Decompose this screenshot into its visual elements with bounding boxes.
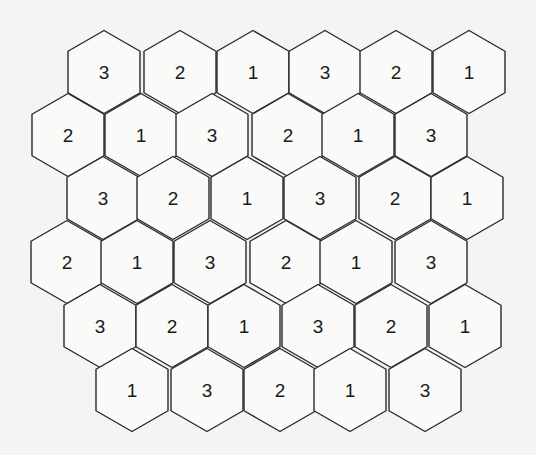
hex-cell-label: 3 bbox=[205, 252, 216, 273]
hex-cell-label: 2 bbox=[63, 125, 74, 146]
hex-cell-label: 1 bbox=[248, 62, 259, 83]
hex-cell-label: 3 bbox=[202, 380, 213, 401]
hex-cell-label: 1 bbox=[345, 380, 356, 401]
hex-cell-label: 2 bbox=[281, 252, 292, 273]
hex-cell-label: 3 bbox=[98, 188, 109, 209]
hex-cell-label: 2 bbox=[167, 316, 178, 337]
hex-cell-label: 3 bbox=[426, 125, 437, 146]
hex-cell-label: 1 bbox=[462, 188, 473, 209]
hex-cell-label: 1 bbox=[351, 252, 362, 273]
hex-grid-diagram: 32132121321332132121321332132113213 bbox=[0, 0, 536, 455]
hex-cell-label: 1 bbox=[242, 188, 253, 209]
hex-cell-label: 1 bbox=[239, 316, 250, 337]
hex-grid-canvas: 32132121321332132121321332132113213 bbox=[0, 0, 536, 455]
hex-cell-label: 1 bbox=[132, 252, 143, 273]
hex-cell-label: 1 bbox=[127, 380, 138, 401]
hex-cell-label: 2 bbox=[175, 62, 186, 83]
hex-cell-label: 3 bbox=[420, 380, 431, 401]
hex-cell-label: 2 bbox=[390, 188, 401, 209]
hex-cell-label: 3 bbox=[320, 62, 331, 83]
hex-cell-label: 2 bbox=[391, 62, 402, 83]
hex-cells: 32132121321332132121321332132113213 bbox=[31, 31, 505, 432]
hex-cell-label: 3 bbox=[95, 316, 106, 337]
hex-cell-label: 3 bbox=[207, 125, 218, 146]
hex-cell-label: 2 bbox=[168, 188, 179, 209]
hex-cell-label: 2 bbox=[386, 316, 397, 337]
hex-cell-label: 1 bbox=[460, 316, 471, 337]
hex-cell-label: 2 bbox=[283, 125, 294, 146]
hex-cell-label: 3 bbox=[313, 316, 324, 337]
hex-cell-label: 1 bbox=[464, 62, 475, 83]
hex-cell-label: 2 bbox=[275, 380, 286, 401]
hex-cell-label: 3 bbox=[315, 188, 326, 209]
hex-cell-label: 1 bbox=[136, 125, 147, 146]
hex-cell-label: 1 bbox=[353, 125, 364, 146]
hex-cell-label: 3 bbox=[426, 252, 437, 273]
hex-cell-label: 2 bbox=[62, 252, 73, 273]
hex-cell-label: 3 bbox=[99, 62, 110, 83]
